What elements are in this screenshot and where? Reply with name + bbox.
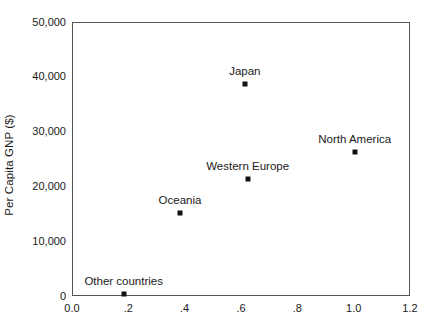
data-point-label: Western Europe (206, 160, 289, 172)
data-point-label: Other countries (84, 275, 163, 287)
data-point-label: Japan (229, 65, 260, 77)
data-point (178, 211, 183, 216)
y-tick-label: 10,000 (4, 236, 66, 247)
x-tick-label: .6 (236, 303, 245, 314)
data-point (242, 82, 247, 87)
x-tick-label: 0.0 (64, 303, 79, 314)
plot-area: JapanNorth AmericaWestern EuropeOceaniaO… (72, 22, 410, 296)
y-tick-label: 50,000 (4, 17, 66, 28)
y-tick-label: 20,000 (4, 181, 66, 192)
y-tick-label: 30,000 (4, 126, 66, 137)
x-axis-tick-labels: 0.0.2.4.6.81.01.2 (0, 303, 431, 319)
data-point (245, 177, 250, 182)
data-point-label: Oceania (159, 194, 202, 206)
x-tick-label: 1.2 (402, 303, 417, 314)
x-tick-label: .4 (180, 303, 189, 314)
data-point-label: North America (318, 133, 391, 145)
y-axis-tick-labels: 50,00040,00030,00020,00010,0000 (0, 0, 66, 330)
data-point (352, 150, 357, 155)
scatter-chart: Per Capita GNP ($) 50,00040,00030,00020,… (0, 0, 431, 330)
x-tick-label: .8 (293, 303, 302, 314)
y-tick-label: 40,000 (4, 71, 66, 82)
x-tick-label: .2 (124, 303, 133, 314)
x-tick-label: 1.0 (346, 303, 361, 314)
data-point (121, 292, 126, 297)
y-tick-label: 0 (4, 291, 66, 302)
